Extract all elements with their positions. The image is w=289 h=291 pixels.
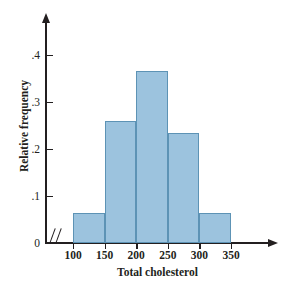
bar-150-200	[105, 121, 137, 243]
y-tick-mark-4	[46, 55, 53, 56]
bar-200-250	[136, 71, 168, 243]
y-tick-mark-2	[46, 149, 53, 150]
x-axis-arrow-icon	[268, 239, 278, 247]
x-tick-label-5: 350	[211, 250, 251, 262]
y-tick-label-0: 0	[18, 238, 40, 250]
x-axis-title: Total cholesterol	[45, 266, 270, 278]
y-tick-mark-1	[46, 196, 53, 197]
y-axis-title: Relative frequency	[18, 36, 30, 216]
bar-100-150	[73, 213, 105, 244]
y-axis-arrow-icon	[42, 13, 50, 23]
histogram-figure: 0 .1 .2 .3 .4 100 150 200 250 300 350 Re…	[0, 0, 289, 291]
y-tick-mark-3	[46, 102, 53, 103]
bar-300-350	[199, 213, 231, 244]
x-axis-break-icon	[49, 228, 67, 244]
bar-250-300	[168, 133, 200, 243]
